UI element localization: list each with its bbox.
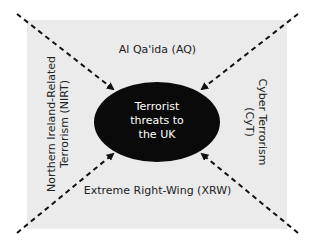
threat-label-nirt: Northern Ireland-Related Terrorism (NIRT… xyxy=(45,56,71,192)
center-label: Terrorist threats to the UK xyxy=(94,100,220,142)
center-line-3: the UK xyxy=(94,128,220,142)
cyt-line-2: (CyT) xyxy=(243,79,256,166)
threat-diagram: Terrorist threats to the UK Al Qa'ida (A… xyxy=(0,0,315,251)
nirt-line-1: Northern Ireland-Related xyxy=(45,56,58,192)
cyt-line-1: Cyber Terrorism xyxy=(256,79,269,166)
threat-label-cyt: Cyber Terrorism (CyT) xyxy=(243,79,269,166)
threat-label-aq: Al Qa'ida (AQ) xyxy=(0,43,315,56)
center-line-2: threats to xyxy=(94,114,220,128)
nirt-line-2: Terrorism (NIRT) xyxy=(58,56,71,192)
center-line-1: Terrorist xyxy=(94,100,220,114)
